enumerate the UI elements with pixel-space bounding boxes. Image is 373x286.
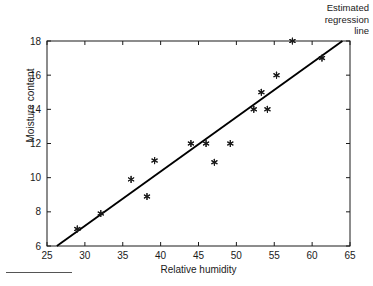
- data-point: [251, 106, 256, 112]
- x-tick-label: 45: [193, 250, 205, 261]
- data-point: [152, 158, 157, 164]
- data-point: [128, 176, 133, 182]
- scatter-plot: 253035404550556065681012141618: [0, 0, 373, 286]
- data-point: [212, 159, 217, 165]
- y-axis-label: Moisture content: [25, 26, 36, 186]
- regression-line-path: [57, 41, 343, 246]
- data-point: [144, 193, 149, 199]
- x-axis-label: Relative humidity: [47, 264, 350, 275]
- data-point: [228, 141, 233, 147]
- y-tick-label: 8: [35, 206, 41, 217]
- x-tick-label: 65: [344, 250, 356, 261]
- footer-rule: [6, 272, 72, 273]
- x-tick-label: 30: [79, 250, 91, 261]
- x-tick-label: 35: [117, 250, 129, 261]
- data-point: [259, 89, 264, 95]
- data-point: [203, 141, 208, 147]
- data-point: [274, 72, 279, 78]
- data-points-group: [75, 38, 325, 232]
- x-tick-label: 55: [269, 250, 281, 261]
- data-point: [188, 141, 193, 147]
- x-tick-label: 60: [307, 250, 319, 261]
- x-tick-label: 40: [155, 250, 167, 261]
- y-tick-label: 6: [35, 241, 41, 252]
- annotation-line-1: Estimated: [327, 2, 369, 13]
- x-tick-label: 50: [231, 250, 243, 261]
- regression-line-annotation: Estimatedregressionline: [249, 2, 369, 37]
- annotation-line-3: line: [354, 25, 369, 36]
- annotation-line-2: regression: [325, 14, 369, 25]
- data-point: [265, 106, 270, 112]
- figure-container: Estimatedregressionline 2530354045505560…: [0, 0, 373, 286]
- regression-line: [57, 41, 343, 246]
- x-tick-label: 25: [41, 250, 53, 261]
